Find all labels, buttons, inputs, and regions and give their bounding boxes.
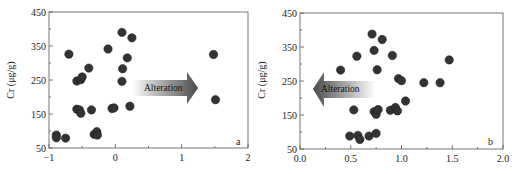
x-tick-label: 1.5: [446, 153, 459, 164]
data-point: [128, 34, 136, 42]
scatter-plot-a: −101250150250350450 Alteration Cr (μg/g)…: [5, 7, 251, 164]
data-point: [397, 76, 405, 84]
x-tick-label: 2: [246, 152, 251, 163]
panel-label-b: b: [488, 136, 493, 147]
y-tick-label: 150: [282, 110, 297, 121]
data-point: [372, 129, 380, 137]
data-point: [118, 77, 126, 85]
data-point: [78, 73, 86, 81]
chart-canvas: −101250150250350450 Alteration Cr (μg/g)…: [0, 0, 512, 174]
y-tick-label: 250: [282, 76, 297, 87]
x-tick-label: 2.0: [497, 153, 510, 164]
data-point: [346, 132, 354, 140]
y-tick-label: 50: [287, 144, 297, 155]
scatter-plot-b: 0.00.51.01.52.050150250350450 Alteration…: [256, 8, 509, 165]
data-point: [374, 105, 382, 113]
data-point: [353, 52, 361, 60]
data-point: [378, 35, 386, 43]
panel-label-a: a: [236, 136, 241, 147]
y-tick-label: 150: [31, 109, 46, 120]
data-point: [388, 51, 396, 59]
alteration-label-b: Alteration: [321, 84, 360, 94]
data-point: [85, 64, 93, 72]
x-tick-label: 0.5: [345, 153, 358, 164]
y-tick-label: 350: [282, 42, 297, 53]
data-point: [77, 109, 85, 117]
y-tick-label: 350: [31, 41, 46, 52]
data-point: [209, 50, 217, 58]
data-point: [393, 107, 401, 115]
data-point: [373, 66, 381, 74]
alteration-label-a: Alteration: [144, 83, 183, 93]
data-point: [118, 65, 126, 73]
y-tick-label: 450: [31, 7, 46, 18]
data-point: [211, 96, 219, 104]
y-tick-label: 250: [31, 75, 46, 86]
alteration-arrow-left: Alteration: [313, 72, 375, 107]
x-tick-label: 0: [113, 152, 118, 163]
y-axis-label-a: Cr (μg/g): [5, 61, 17, 98]
x-tick-label: −1: [44, 152, 55, 163]
data-point: [420, 79, 428, 87]
y-tick-label: 450: [282, 8, 297, 19]
alteration-arrow-right: Alteration: [132, 72, 198, 104]
y-axis-label-b: Cr (μg/g): [256, 61, 268, 98]
data-point: [401, 97, 409, 105]
x-tick-label: 1: [179, 152, 184, 163]
data-point: [356, 135, 364, 143]
data-point: [61, 134, 69, 142]
data-point: [110, 104, 118, 112]
data-point: [436, 79, 444, 87]
data-point: [370, 46, 378, 54]
data-point: [104, 45, 112, 53]
data-point: [336, 66, 344, 74]
data-point: [126, 102, 134, 110]
x-tick-label: 1.0: [395, 153, 408, 164]
y-tick-label: 50: [36, 143, 46, 154]
data-point: [123, 54, 131, 62]
data-point: [65, 50, 73, 58]
data-point: [368, 30, 376, 38]
data-point: [52, 134, 60, 142]
data-point: [87, 106, 95, 114]
data-point: [118, 28, 126, 36]
data-point: [350, 106, 358, 114]
data-point: [93, 131, 101, 139]
data-point: [445, 56, 453, 64]
x-tick-label: 0.0: [294, 153, 307, 164]
